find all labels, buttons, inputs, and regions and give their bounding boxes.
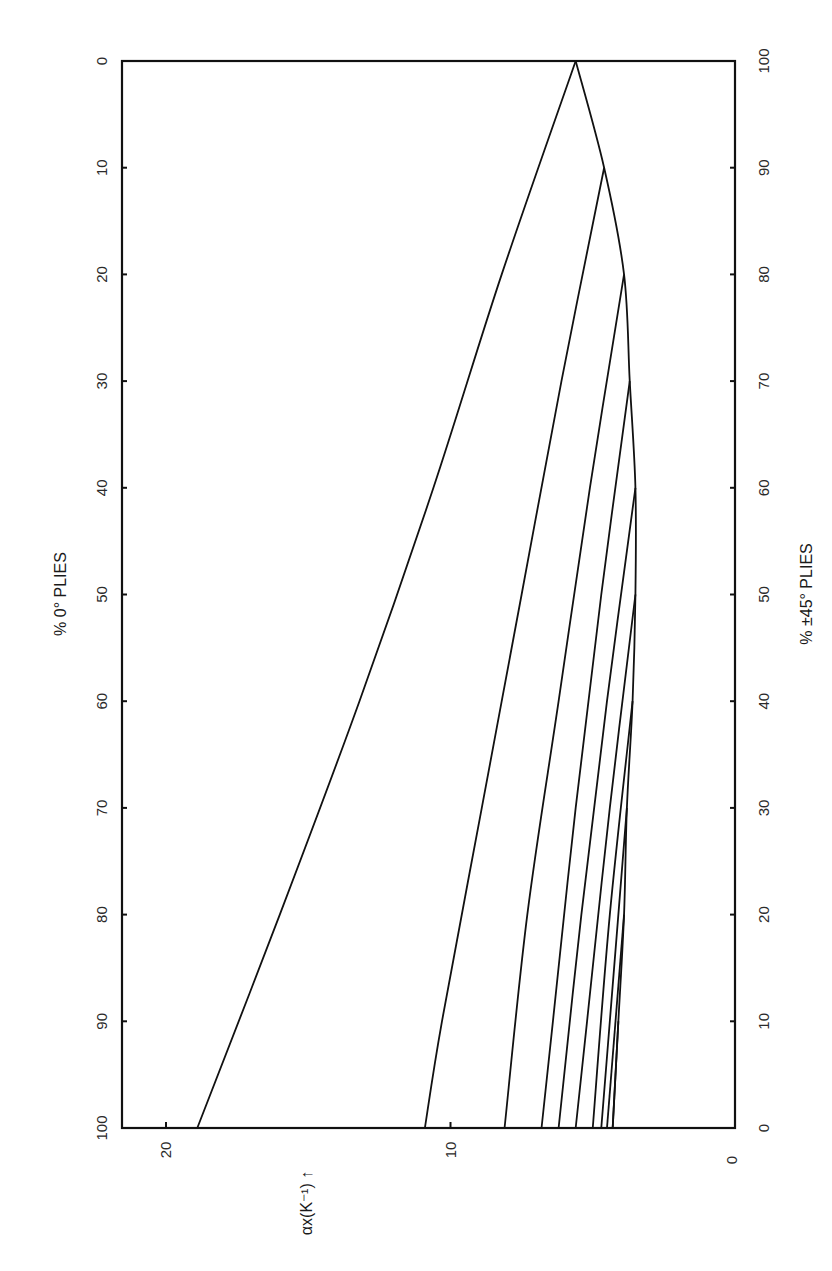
top-axis-tick-label: 70 — [93, 800, 110, 817]
right-axis-tick-label: 30 — [755, 800, 772, 817]
right-axis-tick-label: 100 — [755, 48, 772, 73]
top-axis-tick-label: 90 — [93, 1013, 110, 1030]
value-axis-tick-label: 10 — [442, 1142, 459, 1159]
top-axis-tick-label: 10 — [93, 159, 110, 176]
value-axis-zero-label: 0 — [723, 1156, 740, 1164]
right-axis-tick-label: 10 — [755, 1013, 772, 1030]
top-axis-tick-label: 50 — [93, 586, 110, 603]
top-axis-tick-label: 20 — [93, 266, 110, 283]
plot-frame — [122, 61, 735, 1128]
right-axis-tick-label: 0 — [755, 1124, 772, 1132]
right-axis-tick-label: 90 — [755, 159, 772, 176]
right-axis-tick-label: 50 — [755, 586, 772, 603]
right-axis-tick-label: 60 — [755, 479, 772, 496]
top-axis-tick-label: 30 — [93, 373, 110, 390]
data-curve — [576, 595, 636, 1129]
right-axis-tick-label: 40 — [755, 693, 772, 710]
right-axis-ticks: 1009080706050403020100 — [730, 48, 772, 1132]
top-axis-tick-label: 80 — [93, 906, 110, 923]
top-axis-title: % 0° PLIES — [52, 552, 69, 636]
top-axis-tick-label: 100 — [93, 1115, 110, 1140]
right-axis-tick-label: 80 — [755, 266, 772, 283]
data-curve — [197, 61, 575, 1128]
value-axis-title: αx(K⁻¹) ↑ — [298, 1171, 315, 1235]
right-axis-tick-label: 70 — [755, 373, 772, 390]
right-axis-tick-label: 20 — [755, 906, 772, 923]
top-axis-tick-label: 0 — [93, 57, 110, 65]
data-curve — [425, 168, 604, 1128]
plot-curves — [197, 61, 636, 1128]
chart: 0102030405060708090100 10090807060504030… — [0, 0, 832, 1271]
top-axis-tick-label: 60 — [93, 693, 110, 710]
secondary-axis-title: % ±45° PLIES — [798, 543, 815, 644]
value-axis-tick-label: 20 — [157, 1142, 174, 1159]
data-curve — [559, 488, 636, 1128]
top-axis-tick-label: 40 — [93, 479, 110, 496]
